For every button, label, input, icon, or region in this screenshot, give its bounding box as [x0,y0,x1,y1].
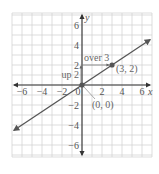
origin-leader-line [84,87,95,99]
x-tick-label: −6 [17,86,28,97]
coordinate-plane: −6−4−20246−6−4−2246xy up 2over 3(3, 2)(0… [0,0,159,174]
point-3-2-label: (3, 2) [116,63,138,75]
up-2-label: up 2 [62,69,80,80]
y-tick-label: −6 [68,140,79,151]
tick-labels: −6−4−20246−6−4−2246xy [17,12,153,151]
y-axis-label: y [84,12,90,23]
x-tick-label: −4 [37,86,48,97]
y-tick-label: −2 [68,100,79,111]
y-tick-label: 4 [74,40,79,51]
data-point [79,82,84,87]
x-axis-label: x [147,86,153,97]
x-tick-label: 2 [100,86,105,97]
data-point [109,62,114,67]
x-tick-label: 4 [120,86,125,97]
y-tick-label: 6 [74,20,79,31]
over-3-label: over 3 [84,52,109,63]
x-tick-label: 6 [140,86,145,97]
point-0-0-label: (0, 0) [92,99,114,111]
y-tick-label: −4 [68,120,79,131]
